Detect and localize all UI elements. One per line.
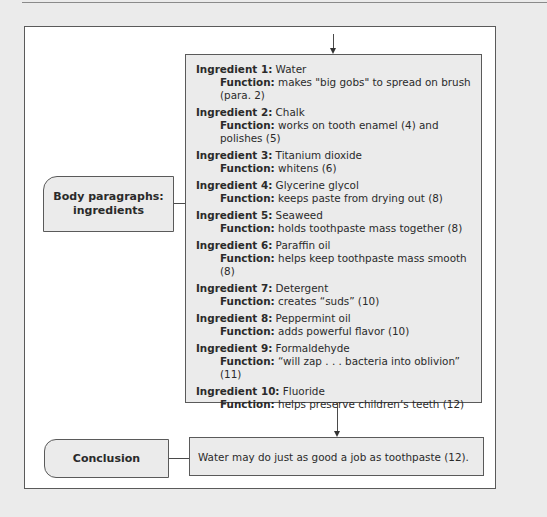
ingredient-item: Ingredient 5: Seaweed Function: holds to… [196, 209, 481, 235]
conclusion-text-box: Water may do just as good a job as tooth… [189, 437, 484, 476]
ingredient-item: Ingredient 10: Fluoride Function: helps … [196, 385, 481, 411]
arrow-out-line [337, 403, 338, 432]
ingredients-box: Ingredient 1: Water Function: makes "big… [185, 54, 482, 403]
body-connector [174, 203, 185, 204]
ingredient-item: Ingredient 7: Detergent Function: create… [196, 282, 481, 308]
conclusion-connector [169, 458, 189, 459]
ingredient-item: Ingredient 1: Water Function: makes "big… [196, 63, 481, 102]
ingredient-item: Ingredient 2: Chalk Function: works on t… [196, 106, 481, 145]
ingredient-item: Ingredient 6: Paraffin oil Function: hel… [196, 239, 481, 278]
ingredient-item: Ingredient 9: Formaldehyde Function: “wi… [196, 342, 481, 381]
body-paragraphs-label: Body paragraphs: ingredients [43, 176, 174, 232]
ingredient-item: Ingredient 8: Peppermint oil Function: a… [196, 312, 481, 338]
ingredient-item: Ingredient 4: Glycerine glycol Function:… [196, 179, 481, 205]
ingredient-item: Ingredient 3: Titanium dioxide Function:… [196, 149, 481, 175]
top-rule [22, 2, 547, 3]
arrow-in-line [333, 34, 334, 49]
conclusion-label: Conclusion [44, 439, 169, 478]
